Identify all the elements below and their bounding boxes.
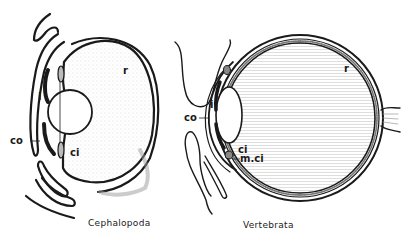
label-ciliary-cephalopod: ci	[70, 148, 79, 158]
cephalopod-iris-lower	[44, 124, 54, 154]
label-iris-vertebrate: i	[210, 100, 213, 110]
cephalopod-lens	[48, 90, 92, 134]
vertebrate-ciliary-lower	[225, 151, 233, 159]
caption-vertebrata: Vertebrata	[243, 221, 294, 230]
eye-comparison-diagram	[0, 0, 403, 238]
cephalopod-iris-upper	[45, 70, 48, 102]
cephalopod-ciliary-lower	[58, 142, 64, 158]
vertebrate-eye	[175, 35, 400, 214]
vertebrate-lens	[216, 87, 242, 143]
vertebrate-ciliary-upper	[224, 66, 231, 75]
label-retina-cephalopod: r	[123, 66, 128, 76]
caption-cephalopoda: Cephalopoda	[88, 219, 151, 228]
label-iris-cephalopod: i	[38, 92, 41, 102]
label-cornea-vertebrate: co	[184, 113, 197, 123]
label-retina-vertebrate: r	[344, 64, 349, 74]
cephalopod-skin-line	[26, 196, 74, 218]
vertebrate-retina	[225, 43, 375, 193]
cephalopod-eye	[26, 14, 158, 218]
label-ciliary-muscle-vertebrate: m.ci	[240, 154, 264, 164]
label-cornea-cephalopod: co	[10, 136, 23, 146]
cephalopod-ciliary-upper	[58, 66, 64, 82]
vertebrate-lower-lid	[185, 132, 212, 214]
